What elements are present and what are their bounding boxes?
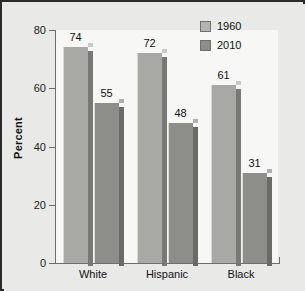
- value-label-black-2010: 31: [235, 157, 275, 169]
- chart-frame: 020406080 Percent 745572486131 WhiteHisp…: [0, 0, 305, 291]
- bar-top-highlight: [162, 49, 167, 53]
- bar-side-shadow: [119, 107, 124, 266]
- bar-face: [94, 103, 119, 263]
- bar-top-highlight: [119, 99, 124, 103]
- category-label-black: Black: [201, 268, 281, 280]
- value-label-black-1960: 61: [204, 69, 244, 81]
- y-tick-20: [49, 205, 56, 206]
- value-label-hispanic-1960: 72: [130, 37, 170, 49]
- bar-side-shadow: [193, 127, 198, 266]
- bar-top-highlight: [267, 169, 272, 173]
- category-label-hispanic: Hispanic: [127, 268, 207, 280]
- bar-hispanic-1960: [137, 53, 162, 263]
- bar-white-2010: [94, 103, 119, 263]
- bar-hispanic-2010: [168, 123, 193, 263]
- y-tick-label-0: 0: [6, 258, 46, 268]
- bar-top-highlight: [88, 43, 93, 47]
- x-axis-end-cap: [279, 257, 280, 264]
- legend-swatch-2010: [200, 40, 211, 51]
- chart-figure: 020406080 Percent 745572486131 WhiteHisp…: [4, 4, 305, 291]
- value-label-white-2010: 55: [87, 87, 127, 99]
- y-tick-label-20: 20: [6, 200, 46, 210]
- value-label-white-1960: 74: [56, 31, 96, 43]
- value-label-hispanic-2010: 48: [161, 107, 201, 119]
- y-axis-tick-labels: 020406080: [4, 4, 46, 291]
- bar-top-highlight: [236, 81, 241, 85]
- bar-side-shadow: [267, 177, 272, 266]
- bar-face: [137, 53, 162, 263]
- bar-face: [168, 123, 193, 263]
- y-tick-label-80: 80: [6, 25, 46, 35]
- legend-label-1960: 1960: [217, 20, 241, 32]
- chart-legend: 1960 2010: [200, 18, 241, 56]
- bar-white-1960: [63, 47, 88, 263]
- y-tick-0: [49, 263, 56, 264]
- bar-black-2010: [242, 173, 267, 263]
- bar-side-shadow: [236, 89, 241, 266]
- bar-black-1960: [211, 85, 236, 263]
- legend-label-2010: 2010: [217, 39, 241, 51]
- legend-item-2010: 2010: [200, 37, 241, 53]
- bar-side-shadow: [162, 57, 167, 266]
- legend-swatch-1960: [200, 21, 211, 32]
- legend-item-1960: 1960: [200, 18, 241, 34]
- bar-top-highlight: [193, 119, 198, 123]
- bar-face: [211, 85, 236, 263]
- y-tick-40: [49, 147, 56, 148]
- y-tick-label-60: 60: [6, 83, 46, 93]
- category-label-white: White: [53, 268, 133, 280]
- y-axis-title: Percent: [12, 108, 24, 168]
- y-tick-60: [49, 88, 56, 89]
- bar-face: [63, 47, 88, 263]
- bar-face: [242, 173, 267, 263]
- bar-side-shadow: [88, 51, 93, 266]
